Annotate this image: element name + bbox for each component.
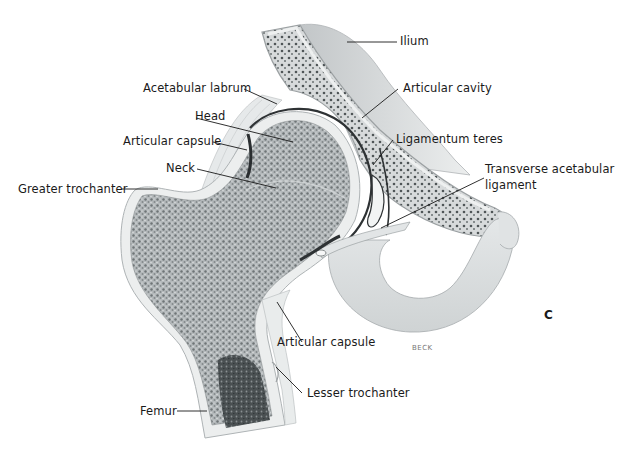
- label-articular-capsule-lower: Articular capsule: [277, 337, 375, 349]
- plate-letter: C: [544, 308, 553, 322]
- label-greater-trochanter: Greater trochanter: [18, 184, 128, 196]
- label-neck: Neck: [166, 163, 195, 175]
- artist-signature: BECK: [412, 344, 433, 352]
- label-acetabular-labrum: Acetabular labrum: [143, 83, 251, 95]
- label-head: Head: [195, 111, 225, 123]
- label-articular-cavity: Articular cavity: [403, 83, 492, 95]
- label-transverse-acetabular-line1: Transverse acetabular: [485, 164, 614, 176]
- label-lesser-trochanter: Lesser trochanter: [307, 388, 410, 400]
- label-ilium: Ilium: [400, 36, 429, 48]
- label-articular-capsule-upper: Articular capsule: [123, 136, 221, 148]
- label-femur: Femur: [140, 406, 177, 418]
- label-ligamentum-teres: Ligamentum teres: [396, 134, 503, 146]
- label-transverse-acetabular-line2: ligament: [485, 180, 537, 192]
- hip-joint-figure: Ilium Acetabular labrum Articular cavity…: [0, 0, 621, 459]
